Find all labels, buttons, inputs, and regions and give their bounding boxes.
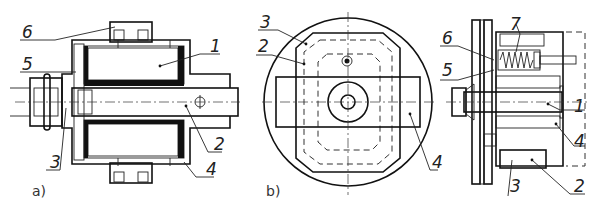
label-5-view-a: 5 <box>22 54 33 74</box>
label-3-view-b: 3 <box>260 12 271 32</box>
label-6-view-c: 6 <box>442 28 453 48</box>
label-6-view-a: 6 <box>22 22 33 42</box>
label-4-view-c: 4 <box>574 131 585 151</box>
label-4-view-b: 4 <box>432 152 443 172</box>
caption-b: b) <box>266 183 280 199</box>
caption-a: a) <box>32 183 46 199</box>
technical-drawing: 6 1 5 2 3 4 a) 3 2 4 b) <box>0 0 602 212</box>
view-c-section <box>440 20 590 196</box>
label-1-view-c: 1 <box>574 96 585 116</box>
view-b-end-view <box>256 12 438 195</box>
label-5-view-c: 5 <box>442 60 453 80</box>
label-2-view-b: 2 <box>258 36 269 56</box>
label-2-view-c: 2 <box>574 176 585 196</box>
label-2-view-a: 2 <box>214 134 225 154</box>
label-3-view-c: 3 <box>510 176 521 196</box>
label-4-view-a: 4 <box>206 159 217 179</box>
label-3-view-a: 3 <box>50 152 61 172</box>
label-7-view-c: 7 <box>510 14 521 34</box>
label-1-view-a: 1 <box>210 36 221 56</box>
